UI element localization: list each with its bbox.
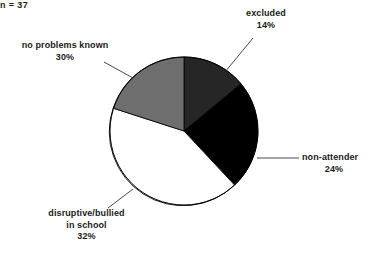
pie-label-excluded: excluded 14% xyxy=(231,8,301,31)
pie-label-non-attender-text: non-attender xyxy=(302,152,358,162)
pie-label-disruptive-bullied-text-line2: in school xyxy=(33,220,140,232)
pie-label-no-problems-known-text: no problems known xyxy=(22,40,109,50)
pie-label-non-attender: non-attender 24% xyxy=(302,152,370,175)
pie-label-disruptive-bullied-percent: 32% xyxy=(33,231,140,243)
pie-chart-figure: excluded 14% non-attender 24% no problem… xyxy=(0,0,370,260)
pie-label-disruptive-bullied-text-line1: disruptive/bullied xyxy=(48,208,124,218)
leader-line-disruptive-bullied xyxy=(108,189,133,208)
pie-label-disruptive-bullied: disruptive/bullied in school 32% xyxy=(33,208,140,243)
pie-label-non-attender-percent: 24% xyxy=(302,164,366,176)
pie-label-no-problems-known-percent: 30% xyxy=(10,52,120,64)
pie-label-excluded-text: excluded xyxy=(246,8,286,18)
leader-line-excluded xyxy=(225,38,253,72)
leader-line-no-problems-known xyxy=(104,62,133,78)
pie-label-no-problems-known: no problems known 30% xyxy=(10,40,120,63)
pie-label-excluded-percent: 14% xyxy=(231,20,301,32)
